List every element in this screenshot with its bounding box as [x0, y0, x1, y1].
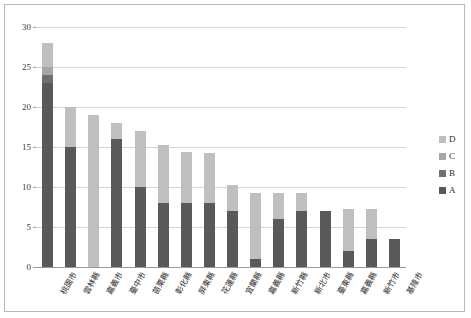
bar-segment-d[interactable] [296, 193, 307, 211]
bar-column[interactable] [198, 27, 221, 267]
bar-column[interactable] [290, 27, 313, 267]
legend-label: C [449, 152, 455, 161]
bar-segment-a[interactable] [135, 187, 146, 267]
bar-segment-a[interactable] [250, 259, 261, 267]
legend-swatch-icon [439, 170, 446, 177]
x-label-slot: 嘉義縣 [244, 268, 267, 318]
bar-column[interactable] [129, 27, 152, 267]
bar-stack[interactable] [227, 185, 238, 267]
x-label-slot: 宜蘭縣 [221, 268, 244, 318]
bar-segment-a[interactable] [343, 251, 354, 267]
bar-column[interactable] [59, 27, 82, 267]
bar-column[interactable] [267, 27, 290, 267]
bar-stack[interactable] [320, 211, 331, 267]
bar-segment-a[interactable] [366, 239, 377, 267]
x-label-slot: 屏東縣 [175, 268, 198, 318]
bar-stack[interactable] [88, 115, 99, 267]
bar-segment-d[interactable] [227, 185, 238, 211]
x-label-slot: 嘉義縣 [337, 268, 360, 318]
legend-item-c[interactable]: C [439, 148, 469, 165]
bar-segment-a[interactable] [296, 211, 307, 267]
bar-segment-d[interactable] [111, 123, 122, 139]
bar-segment-d[interactable] [366, 209, 377, 239]
bar-stack[interactable] [204, 153, 215, 267]
legend-swatch-icon [439, 187, 446, 194]
x-label-slot: 嘉義市 [82, 268, 105, 318]
x-label-slot: 臺東縣 [314, 268, 337, 318]
bar-stack[interactable] [366, 209, 377, 267]
bar-segment-d[interactable] [135, 131, 146, 187]
y-axis-tick-label: 0 [27, 262, 32, 272]
bar-column[interactable] [221, 27, 244, 267]
legend-label: B [449, 169, 455, 178]
x-label-slot: 花蓮縣 [198, 268, 221, 318]
chart-frame: 051015202530 桃園市雲林縣嘉義市臺中市苗栗縣彰化縣屏東縣花蓮縣宜蘭縣… [4, 4, 465, 312]
bar-stack[interactable] [250, 193, 261, 267]
bar-column[interactable] [152, 27, 175, 267]
bar-segment-d[interactable] [42, 43, 53, 67]
y-axis-tick-label: 20 [22, 102, 31, 112]
bar-stack[interactable] [65, 107, 76, 267]
bar-segment-a[interactable] [320, 211, 331, 267]
x-label-slot: 新竹市 [360, 268, 383, 318]
y-axis-tick-label: 10 [22, 182, 31, 192]
x-axis-tick-label: 基隆市 [403, 270, 425, 296]
bar-segment-a[interactable] [42, 83, 53, 267]
bar-column[interactable] [82, 27, 105, 267]
bar-segment-c[interactable] [42, 67, 53, 75]
bar-segment-d[interactable] [88, 115, 99, 267]
bar-segment-a[interactable] [389, 239, 400, 267]
bar-column[interactable] [314, 27, 337, 267]
y-axis-tick-label: 5 [27, 222, 32, 232]
y-axis-tick-label: 25 [22, 62, 31, 72]
legend-label: D [449, 135, 456, 144]
bar-stack[interactable] [296, 193, 307, 267]
bar-segment-d[interactable] [250, 193, 261, 259]
x-label-slot: 桃園市 [36, 268, 59, 318]
x-label-slot: 彰化縣 [152, 268, 175, 318]
bar-segment-b[interactable] [42, 75, 53, 83]
bar-stack[interactable] [273, 193, 284, 267]
bar-column[interactable] [36, 27, 59, 267]
legend-item-a[interactable]: A [439, 182, 469, 199]
bar-stack[interactable] [343, 209, 354, 267]
bar-column[interactable] [105, 27, 128, 267]
legend-item-d[interactable]: D [439, 131, 469, 148]
bar-column[interactable] [383, 27, 406, 267]
bar-stack[interactable] [181, 152, 192, 267]
bar-segment-d[interactable] [273, 193, 284, 219]
bar-column[interactable] [175, 27, 198, 267]
bar-segment-d[interactable] [158, 145, 169, 203]
x-label-slot: 雲林縣 [59, 268, 82, 318]
bar-segment-a[interactable] [273, 219, 284, 267]
bar-column[interactable] [244, 27, 267, 267]
bar-segment-a[interactable] [65, 147, 76, 267]
legend-item-b[interactable]: B [439, 165, 469, 182]
legend-label: A [449, 186, 456, 195]
bar-stack[interactable] [111, 123, 122, 267]
chart-legend: DCBA [439, 131, 469, 199]
bar-segment-a[interactable] [227, 211, 238, 267]
x-label-slot: 新竹縣 [267, 268, 290, 318]
y-axis-tick-label: 15 [22, 142, 31, 152]
bar-segment-d[interactable] [204, 153, 215, 203]
x-label-slot: 臺中市 [105, 268, 128, 318]
bar-stack[interactable] [158, 145, 169, 267]
bar-stack[interactable] [42, 43, 53, 267]
legend-swatch-icon [439, 153, 446, 160]
bar-segment-d[interactable] [65, 107, 76, 147]
bar-segment-a[interactable] [181, 203, 192, 267]
bar-segment-a[interactable] [204, 203, 215, 267]
bar-series-group [36, 27, 406, 267]
x-label-slot: 新北市 [290, 268, 313, 318]
y-axis-tick-label: 30 [22, 22, 31, 32]
bar-stack[interactable] [389, 239, 400, 267]
legend-swatch-icon [439, 136, 446, 143]
bar-segment-a[interactable] [111, 139, 122, 267]
bar-stack[interactable] [135, 131, 146, 267]
bar-column[interactable] [337, 27, 360, 267]
bar-column[interactable] [360, 27, 383, 267]
bar-segment-d[interactable] [343, 209, 354, 251]
bar-segment-a[interactable] [158, 203, 169, 267]
bar-segment-d[interactable] [181, 152, 192, 203]
